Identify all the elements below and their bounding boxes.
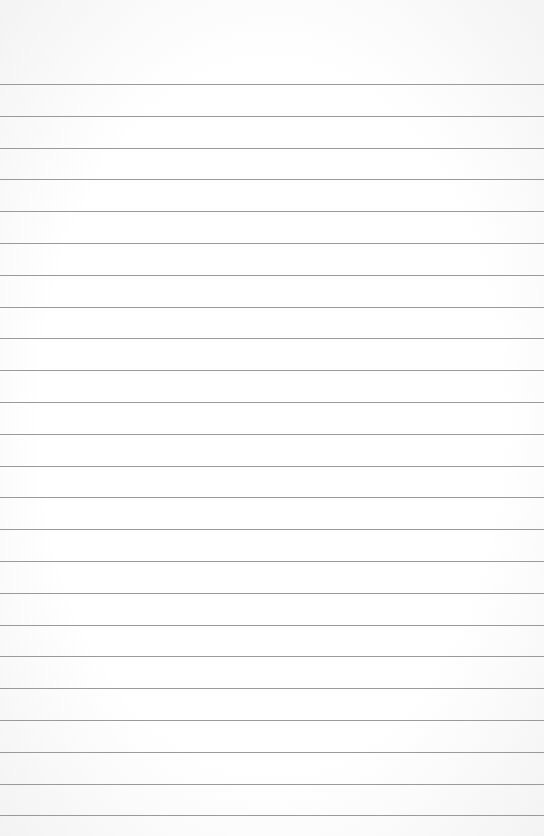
ruled-line [0,815,544,816]
ruled-line [0,720,544,721]
ruled-line [0,752,544,753]
ruled-line [0,243,544,244]
ruled-line [0,179,544,180]
ruled-line [0,84,544,85]
lined-paper-sheet [0,0,544,836]
ruled-line [0,370,544,371]
ruled-line [0,688,544,689]
ruled-line [0,338,544,339]
ruled-line [0,275,544,276]
ruled-line [0,784,544,785]
ruled-line [0,148,544,149]
ruled-line [0,656,544,657]
ruled-line [0,625,544,626]
ruled-line [0,307,544,308]
ruled-line [0,211,544,212]
ruled-line [0,116,544,117]
ruled-line [0,497,544,498]
ruled-line [0,466,544,467]
ruled-line [0,434,544,435]
ruled-line [0,402,544,403]
ruled-line [0,561,544,562]
ruled-line [0,529,544,530]
ruled-line [0,593,544,594]
